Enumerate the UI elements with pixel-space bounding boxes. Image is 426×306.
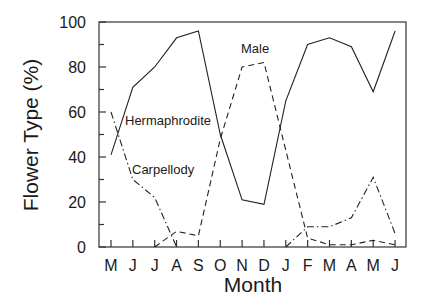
y-tick-label: 0: [77, 239, 86, 256]
y-axis-title: Flower Type (%): [19, 59, 42, 212]
x-tick-label: A: [171, 257, 182, 274]
y-tick-label: 20: [68, 194, 86, 211]
x-tick-label: A: [346, 257, 357, 274]
x-tick-label: S: [193, 257, 204, 274]
y-tick-label: 60: [68, 104, 86, 121]
series-label-male: Male: [241, 41, 269, 56]
line-chart: 020406080100 MJJASONDJFMAMJ Hermaphrodit…: [0, 0, 426, 306]
x-tick-label: J: [151, 257, 159, 274]
x-tick-label: O: [214, 257, 226, 274]
y-tick-label: 100: [59, 14, 86, 31]
x-tick-label: M: [104, 257, 117, 274]
x-tick-label: J: [391, 257, 399, 274]
x-axis: MJJASONDJFMAMJ: [104, 240, 399, 274]
x-tick-label: N: [236, 257, 248, 274]
annotation-layer: HermaphroditeMaleCarpellody: [125, 41, 269, 177]
x-axis-title: Month: [224, 273, 282, 296]
x-tick-label: J: [129, 257, 137, 274]
x-tick-label: M: [323, 257, 336, 274]
x-tick-label: D: [258, 257, 270, 274]
y-tick-label: 80: [68, 59, 86, 76]
series-label-carpellody: Carpellody: [132, 162, 195, 177]
x-tick-label: M: [367, 257, 380, 274]
x-tick-label: F: [303, 257, 313, 274]
x-tick-label: J: [282, 257, 290, 274]
series-layer: [111, 31, 395, 247]
series-label-hermaphrodite: Hermaphrodite: [125, 113, 211, 128]
series-carpellody-line: [286, 177, 395, 247]
series-carpellody-line: [111, 112, 177, 247]
y-tick-label: 40: [68, 149, 86, 166]
